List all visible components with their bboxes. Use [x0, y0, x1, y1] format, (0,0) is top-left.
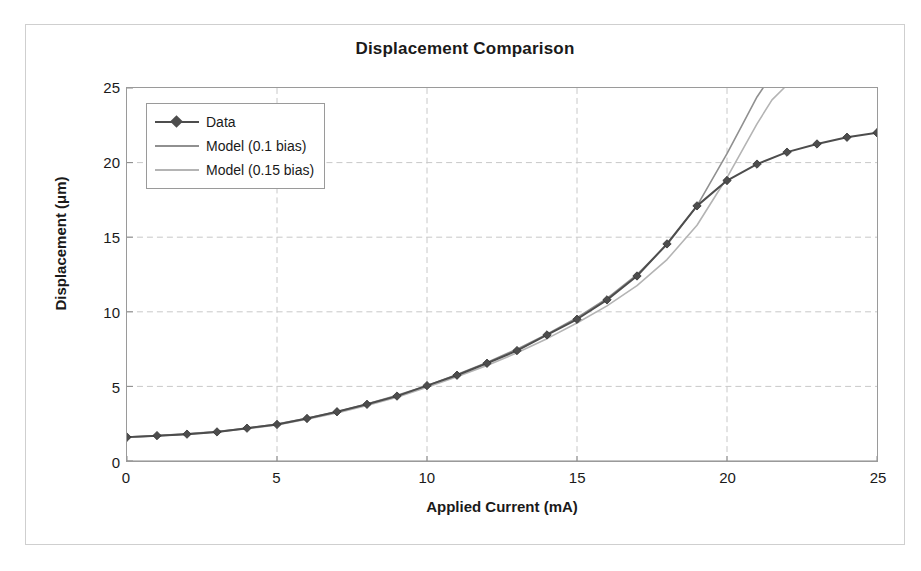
legend-line-icon — [155, 145, 199, 147]
x-tick-label: 5 — [256, 469, 296, 486]
x-tick-label: 25 — [858, 469, 898, 486]
data-point-marker — [783, 148, 791, 156]
legend-label: Model (0.15 bias) — [206, 162, 314, 178]
data-point-marker — [127, 433, 131, 441]
legend-label: Model (0.1 bias) — [206, 138, 306, 154]
chart-frame: Displacement Comparison Displacement (μm… — [25, 24, 905, 545]
data-point-marker — [393, 392, 401, 400]
y-tick-label: 15 — [86, 229, 120, 246]
y-tick-label: 5 — [86, 379, 120, 396]
data-point-marker — [213, 428, 221, 436]
chart-legend: DataModel (0.1 bias)Model (0.15 bias) — [146, 103, 325, 189]
data-point-marker — [843, 133, 851, 141]
x-tick-label: 20 — [708, 469, 748, 486]
data-point-marker — [153, 431, 161, 439]
legend-label: Data — [206, 114, 236, 130]
y-axis-title: Displacement (μm) — [52, 124, 69, 364]
x-tick-label: 15 — [557, 469, 597, 486]
plot-area: DataModel (0.1 bias)Model (0.15 bias) — [126, 87, 878, 462]
data-point-marker — [333, 408, 341, 416]
data-point-marker — [753, 160, 761, 168]
data-point-marker — [183, 430, 191, 438]
data-point-marker — [363, 400, 371, 408]
data-point-marker — [873, 129, 877, 137]
legend-diamond-icon — [170, 115, 183, 128]
x-axis-tick-labels: 0510152025 — [126, 469, 878, 491]
legend-item[interactable]: Model (0.1 bias) — [155, 134, 314, 158]
data-point-marker — [303, 414, 311, 422]
legend-swatch — [155, 163, 199, 177]
chart-figure: Displacement Comparison Displacement (μm… — [0, 0, 921, 571]
x-axis-title: Applied Current (mA) — [126, 498, 878, 515]
x-tick-label: 0 — [106, 469, 146, 486]
data-point-marker — [273, 420, 281, 428]
chart-title: Displacement Comparison — [26, 39, 904, 59]
y-tick-label: 0 — [86, 454, 120, 471]
x-tick-label: 10 — [407, 469, 447, 486]
y-tick-label: 25 — [86, 79, 120, 96]
data-point-marker — [243, 424, 251, 432]
legend-swatch — [155, 115, 199, 129]
y-tick-label: 10 — [86, 304, 120, 321]
legend-item[interactable]: Model (0.15 bias) — [155, 158, 314, 182]
legend-line-icon — [155, 169, 199, 171]
y-axis-tick-labels: 0510152025 — [78, 87, 120, 462]
y-tick-label: 20 — [86, 154, 120, 171]
legend-swatch — [155, 139, 199, 153]
data-point-marker — [813, 140, 821, 148]
legend-item[interactable]: Data — [155, 110, 314, 134]
